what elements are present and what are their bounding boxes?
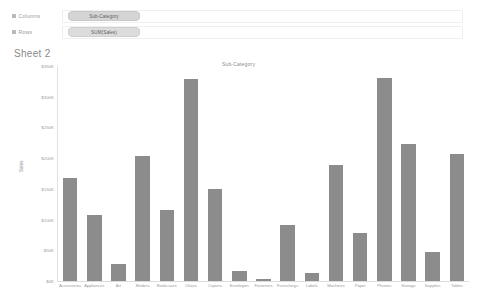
y-axis-tick-label: $100K: [24, 217, 54, 222]
tableau-worksheet: Columns Sub-Category Rows SUM(Sales) She…: [0, 0, 477, 308]
chart-area: Sales $350K$300K$250K$200K$150K$100K$50K…: [0, 0, 477, 308]
x-axis-tick-label: Chairs: [179, 283, 203, 288]
bar-slot: [396, 66, 420, 281]
bar-slot: [131, 66, 155, 281]
bar-slot: [348, 66, 372, 281]
x-axis-tick-label: Accessories: [58, 283, 82, 288]
x-axis-tick-label: Bookcases: [155, 283, 179, 288]
bar[interactable]: [184, 79, 199, 281]
y-axis-tick-label: $200K: [24, 156, 54, 161]
y-axis-tick-label: $350K: [24, 64, 54, 69]
bar-slot: [58, 66, 82, 281]
bar-slot: [421, 66, 445, 281]
bar-slot: [276, 66, 300, 281]
bar-slot: [82, 66, 106, 281]
x-axis-tick-label: Envelopes: [227, 283, 251, 288]
bar[interactable]: [256, 279, 271, 281]
y-axis-tick-label: $300K: [24, 94, 54, 99]
bar-slot: [179, 66, 203, 281]
bar[interactable]: [353, 233, 368, 281]
bar[interactable]: [425, 252, 440, 281]
bar[interactable]: [232, 271, 247, 281]
bar[interactable]: [377, 78, 392, 281]
x-axis-tick-label: Appliances: [82, 283, 106, 288]
y-axis-title: Sales: [19, 161, 24, 173]
bar-slot: [372, 66, 396, 281]
bar[interactable]: [87, 215, 102, 281]
x-axis-tick-label: Machines: [324, 283, 348, 288]
x-axis-labels: AccessoriesAppliancesArtBindersBookcases…: [58, 283, 469, 288]
bar[interactable]: [329, 165, 344, 281]
x-axis-tick-label: Fasteners: [251, 283, 275, 288]
bar-slot: [251, 66, 275, 281]
x-axis-tick-label: Storage: [396, 283, 420, 288]
x-axis-tick-label: Paper: [348, 283, 372, 288]
bar[interactable]: [160, 210, 175, 281]
x-axis-tick-label: Supplies: [421, 283, 445, 288]
bar[interactable]: [450, 154, 465, 281]
bar-slot: [155, 66, 179, 281]
bar-slot: [445, 66, 469, 281]
y-axis-tick-label: $0K: [24, 279, 54, 284]
x-axis-line: [57, 281, 469, 282]
bar[interactable]: [401, 144, 416, 282]
bar[interactable]: [305, 273, 320, 281]
x-axis-tick-label: Phones: [372, 283, 396, 288]
bar-slot: [106, 66, 130, 281]
bar-slot: [300, 66, 324, 281]
x-axis-tick-label: Art: [106, 283, 130, 288]
bar-slot: [324, 66, 348, 281]
bar[interactable]: [208, 189, 223, 281]
x-axis-tick-label: Copiers: [203, 283, 227, 288]
x-axis-tick-label: Furnishings: [276, 283, 300, 288]
y-axis-tick-label: $150K: [24, 186, 54, 191]
y-axis-tick-label: $50K: [24, 248, 54, 253]
bar-slot: [227, 66, 251, 281]
y-axis-tick-label: $250K: [24, 125, 54, 130]
bar[interactable]: [280, 225, 295, 281]
bar[interactable]: [135, 156, 150, 281]
bar-series: [58, 66, 469, 281]
bar-slot: [203, 66, 227, 281]
bar[interactable]: [63, 178, 78, 281]
x-axis-tick-label: Labels: [300, 283, 324, 288]
x-axis-tick-label: Binders: [131, 283, 155, 288]
x-axis-tick-label: Tables: [445, 283, 469, 288]
bar[interactable]: [111, 264, 126, 281]
